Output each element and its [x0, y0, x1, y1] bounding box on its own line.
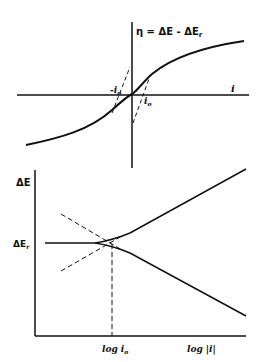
- bottom-x-axis-label: log |i|: [187, 344, 216, 355]
- log-i0-tick-label: log io: [102, 344, 128, 355]
- diagram-canvas: η = ΔE - ΔEr i -io io ΔE ΔEr log io log …: [0, 0, 261, 362]
- top-x-axis-label: i: [231, 83, 235, 94]
- pos-i0-label: io: [144, 96, 151, 107]
- overpotential-curve: [26, 41, 244, 145]
- anodic-branch: [95, 169, 246, 243]
- top-plot: η = ΔE - ΔEr i -io io: [17, 22, 249, 168]
- anodic-tafel-dashed: [61, 236, 122, 271]
- top-y-axis-label: η = ΔE - ΔEr: [136, 26, 203, 39]
- cathodic-tafel-dashed: [61, 214, 122, 250]
- bottom-y-axis-label: ΔE: [16, 177, 31, 188]
- delta-er-label: ΔEr: [13, 239, 29, 250]
- cathodic-branch: [95, 243, 246, 316]
- bottom-plot: ΔE ΔEr log io log |i|: [13, 169, 246, 355]
- neg-i0-label: -io: [110, 85, 121, 96]
